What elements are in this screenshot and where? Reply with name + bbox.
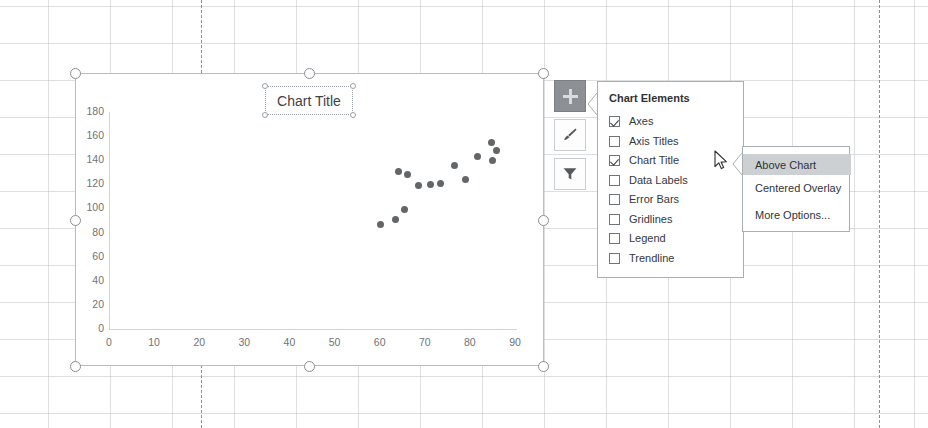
chart-elements-list: AxesAxis TitlesChart TitleData LabelsErr… (609, 112, 737, 268)
checkbox-icon[interactable] (609, 214, 620, 225)
chart-element-row[interactable]: Gridlines (609, 210, 737, 230)
chart-styles-button[interactable] (554, 119, 586, 151)
submenu-item[interactable]: Centered Overlay (743, 177, 851, 198)
checkbox-icon[interactable] (609, 136, 620, 147)
chart-element-row[interactable]: Axis Titles (609, 132, 737, 152)
funnel-icon (561, 165, 579, 183)
chart-handle-top-left[interactable] (70, 68, 81, 79)
chart-elements-button[interactable] (554, 80, 586, 112)
x-tick-label: 80 (455, 336, 485, 348)
scatter-point[interactable] (427, 181, 434, 188)
chart-handle-bottom-left[interactable] (70, 361, 81, 372)
scatter-point[interactable] (488, 139, 495, 146)
chart-elements-pane[interactable]: Chart Elements AxesAxis TitlesChart Titl… (597, 81, 744, 278)
paintbrush-icon (561, 126, 579, 144)
chart-handle-middle-left[interactable] (70, 215, 81, 226)
scatter-point[interactable] (415, 182, 422, 189)
chart-element-label: Trendline (629, 253, 674, 264)
x-axis-line[interactable] (109, 329, 517, 330)
scatter-point[interactable] (395, 168, 402, 175)
checkbox-icon[interactable] (609, 253, 620, 264)
scatter-point[interactable] (404, 171, 411, 178)
y-tick-label: 180 (70, 105, 104, 117)
title-handle-br[interactable] (350, 112, 356, 118)
submenu-item[interactable]: Above Chart (743, 154, 851, 175)
checkbox-icon[interactable] (609, 194, 620, 205)
chart-handle-top-right[interactable] (538, 68, 549, 79)
x-axis-tick-labels: 0102030405060708090 (109, 336, 519, 352)
y-tick-label: 120 (70, 177, 104, 189)
x-tick-label: 90 (500, 336, 530, 348)
submenu-item[interactable]: More Options... (743, 204, 851, 225)
y-tick-label: 20 (70, 298, 104, 310)
checkbox-icon[interactable] (609, 233, 620, 244)
scatter-point[interactable] (401, 206, 408, 213)
x-tick-label: 60 (365, 336, 395, 348)
x-tick-label: 70 (410, 336, 440, 348)
y-tick-label: 160 (70, 129, 104, 141)
scatter-point[interactable] (462, 176, 469, 183)
title-handle-tr[interactable] (350, 83, 356, 89)
chart-element-row[interactable]: Trendline (609, 249, 737, 269)
chart-element-row[interactable]: Error Bars (609, 190, 737, 210)
y-tick-label: 100 (70, 201, 104, 213)
x-tick-label: 10 (139, 336, 169, 348)
scatter-point[interactable] (437, 180, 444, 187)
x-tick-label: 20 (184, 336, 214, 348)
chart-handle-bottom-right[interactable] (538, 361, 549, 372)
checkbox-checked-icon[interactable] (609, 116, 620, 127)
y-tick-label: 140 (70, 153, 104, 165)
chart-element-label: Legend (629, 233, 666, 244)
scatter-point[interactable] (474, 153, 481, 160)
x-tick-label: 40 (274, 336, 304, 348)
chart-element-label: Axes (629, 116, 653, 127)
scatter-point[interactable] (489, 157, 496, 164)
x-tick-label: 0 (94, 336, 124, 348)
chart-title-position-submenu[interactable]: Above ChartCentered OverlayMore Options.… (742, 146, 850, 232)
chart-title-text: Chart Title (277, 93, 341, 109)
chart-filters-button[interactable] (554, 158, 586, 190)
scatter-point[interactable] (392, 216, 399, 223)
checkbox-icon[interactable] (609, 175, 620, 186)
scatter-point[interactable] (493, 147, 500, 154)
chart-element-row[interactable]: Axes (609, 112, 737, 132)
chart-element-row[interactable]: Legend (609, 229, 737, 249)
worksheet-canvas: 020406080100120140160180 010203040506070… (0, 0, 928, 428)
submenu-callout-pointer (731, 152, 743, 176)
chart-handle-bottom-center[interactable] (304, 361, 315, 372)
plus-icon (563, 89, 578, 104)
scatter-point[interactable] (451, 162, 458, 169)
scatter-point[interactable] (377, 221, 384, 228)
y-tick-label: 0 (70, 322, 104, 334)
x-tick-label: 30 (229, 336, 259, 348)
chart-element-label: Data Labels (629, 175, 688, 186)
chart-handle-middle-right[interactable] (538, 215, 549, 226)
chart-element-label: Error Bars (629, 194, 679, 205)
title-handle-tl[interactable] (262, 83, 268, 89)
page-break-line-right (879, 0, 880, 428)
chart-elements-heading: Chart Elements (609, 92, 690, 104)
title-handle-bl[interactable] (262, 112, 268, 118)
mouse-cursor (714, 150, 730, 176)
chart-elements-callout-pointer (586, 92, 598, 116)
chart-element-label: Gridlines (629, 214, 672, 225)
chart-element-label: Axis Titles (629, 136, 679, 147)
checkbox-checked-icon[interactable] (609, 155, 620, 166)
x-tick-label: 50 (320, 336, 350, 348)
plot-area[interactable] (110, 112, 516, 329)
chart-title[interactable]: Chart Title (265, 86, 353, 115)
y-tick-label: 80 (70, 226, 104, 238)
chart-element-label: Chart Title (629, 155, 679, 166)
chart-handle-top-center[interactable] (304, 68, 315, 79)
y-tick-label: 60 (70, 250, 104, 262)
y-tick-label: 40 (70, 274, 104, 286)
